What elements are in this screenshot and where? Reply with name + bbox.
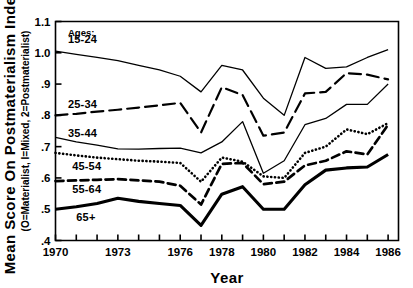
x-axis-tick-label: 1984 bbox=[334, 246, 360, 258]
series-label-35-44: 35-44 bbox=[68, 127, 98, 139]
y-axis-tick-label: 1.0 bbox=[35, 47, 51, 59]
y-axis-tick-label: .9 bbox=[41, 78, 51, 90]
x-axis-tick-label: 1980 bbox=[251, 246, 277, 258]
plot-frame bbox=[56, 22, 399, 241]
postmaterialism-line-chart: .4.5.6.7.8.91.01.11970197319761978198019… bbox=[0, 0, 413, 288]
y-axis-tick-label: .8 bbox=[41, 109, 51, 121]
y-axis-tick-label: .7 bbox=[41, 141, 51, 153]
x-axis-tick-label: 1973 bbox=[105, 246, 131, 258]
series-label-55-64: 55-64 bbox=[72, 183, 102, 195]
data-series-line-65+ bbox=[56, 154, 389, 225]
series-label-25-34: 25-34 bbox=[68, 98, 98, 110]
y-axis-subtitle: (O=Materialist, I=Mixed, 2=Postmateriali… bbox=[20, 31, 31, 232]
chart-canvas: .4.5.6.7.8.91.01.11970197319761978198019… bbox=[0, 0, 413, 288]
x-axis-tick-label: 1976 bbox=[167, 246, 193, 258]
legend-heading: Ages: bbox=[68, 27, 94, 38]
x-axis-tick-label: 1978 bbox=[209, 246, 235, 258]
data-series-line-25-34 bbox=[56, 73, 389, 136]
data-series-line-15-24 bbox=[56, 50, 389, 116]
y-axis-title: Mean Score On Postmaterialism Index bbox=[1, 0, 18, 274]
data-series-line-35-44 bbox=[56, 84, 389, 173]
y-axis-tick-label: .6 bbox=[41, 172, 51, 184]
y-axis-tick-label: .5 bbox=[41, 203, 51, 215]
data-series-line-45-54 bbox=[56, 123, 389, 181]
series-label-65+: 65+ bbox=[76, 211, 95, 223]
x-axis-tick-label: 1970 bbox=[43, 246, 69, 258]
x-axis-title: Year bbox=[210, 269, 243, 286]
x-axis-tick-label: 1982 bbox=[292, 246, 318, 258]
x-axis-tick-label: 1986 bbox=[375, 246, 401, 258]
series-label-45-54: 45-54 bbox=[72, 160, 102, 172]
y-axis-tick-label: 1.1 bbox=[35, 16, 52, 28]
